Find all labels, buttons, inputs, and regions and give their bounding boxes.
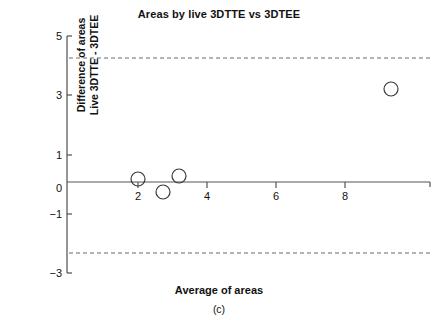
data-point (384, 82, 398, 96)
y-axis-label-line1: Difference of areas (75, 18, 88, 113)
x-tick-label-2: 2 (128, 191, 148, 202)
y-tick-label-5: 5 (40, 31, 62, 42)
plot-canvas (0, 0, 438, 328)
y-axis-label-line2: Live 3DTTE - 3DTEE (88, 15, 101, 115)
y-tick-label-1: 1 (40, 150, 62, 161)
data-point (156, 185, 170, 199)
y-tick-label-minus1: −1 (40, 209, 62, 220)
x-tick-label-6: 6 (266, 191, 286, 202)
y-tick-label-minus3: −3 (40, 268, 62, 279)
panel-label: (c) (0, 303, 438, 315)
data-point (172, 169, 186, 183)
y-axis-label: Difference of areas Live 3DTTE - 3DTEE (71, 0, 105, 175)
x-tick-label-4: 4 (197, 191, 217, 202)
x-tick-label-8: 8 (335, 191, 355, 202)
y-tick-label-0: 0 (40, 183, 62, 194)
bland-altman-figure: Areas by live 3DTTE vs 3DTEE 5 3 1 0 −1 … (0, 0, 438, 328)
y-tick-label-3: 3 (40, 90, 62, 101)
x-axis-label: Average of areas (0, 284, 438, 296)
